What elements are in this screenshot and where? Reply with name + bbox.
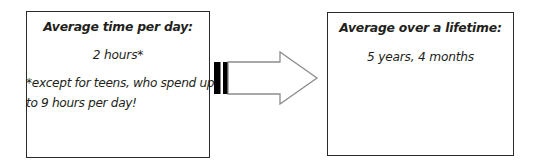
right-arrow-icon — [210, 45, 322, 115]
right-panel-heading: Average over a lifetime: — [328, 20, 513, 35]
diagram-canvas: Average time per day: 2 hours* *except f… — [0, 0, 534, 168]
left-panel-value: 2 hours* — [27, 48, 209, 62]
arrow-body — [228, 52, 317, 104]
right-panel-value: 5 years, 4 months — [328, 50, 513, 64]
arrow-tail-bar-2 — [223, 62, 228, 94]
right-panel: Average over a lifetime: 5 years, 4 mont… — [327, 12, 514, 156]
arrow-tail-bar-1 — [214, 62, 221, 94]
left-panel-note: *except for teens, who spend up to 9 hou… — [26, 74, 216, 113]
left-panel: Average time per day: 2 hours* *except f… — [26, 11, 210, 158]
left-panel-heading: Average time per day: — [27, 19, 209, 34]
